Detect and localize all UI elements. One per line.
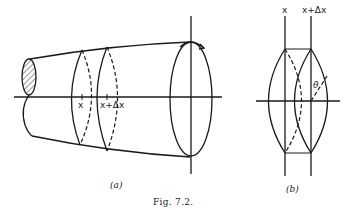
- hatched-cross-section: [22, 59, 36, 95]
- section-xdx-back: [107, 47, 118, 151]
- figure-7-2: x x+Δx (a) θ x x+Δx (b) Fig. 7.2.: [0, 0, 352, 210]
- label-x-plus-dx: x+Δx: [100, 100, 125, 110]
- panel-a-bar-diagram: x x+Δx (a): [14, 16, 222, 190]
- theta-label: θ: [313, 80, 319, 90]
- panel-b-label: (b): [286, 184, 299, 194]
- label-x: x: [78, 100, 84, 110]
- section-xdx-front: [97, 47, 107, 151]
- label-b-x: x: [282, 5, 288, 15]
- bar-left-end-curve: [23, 95, 32, 136]
- panel-a-label: (a): [110, 180, 123, 190]
- label-b-x-plus-dx: x+Δx: [302, 5, 327, 15]
- figure-caption: Fig. 7.2.: [153, 197, 193, 207]
- panel-b-section-diagram: θ x x+Δx (b): [256, 5, 340, 194]
